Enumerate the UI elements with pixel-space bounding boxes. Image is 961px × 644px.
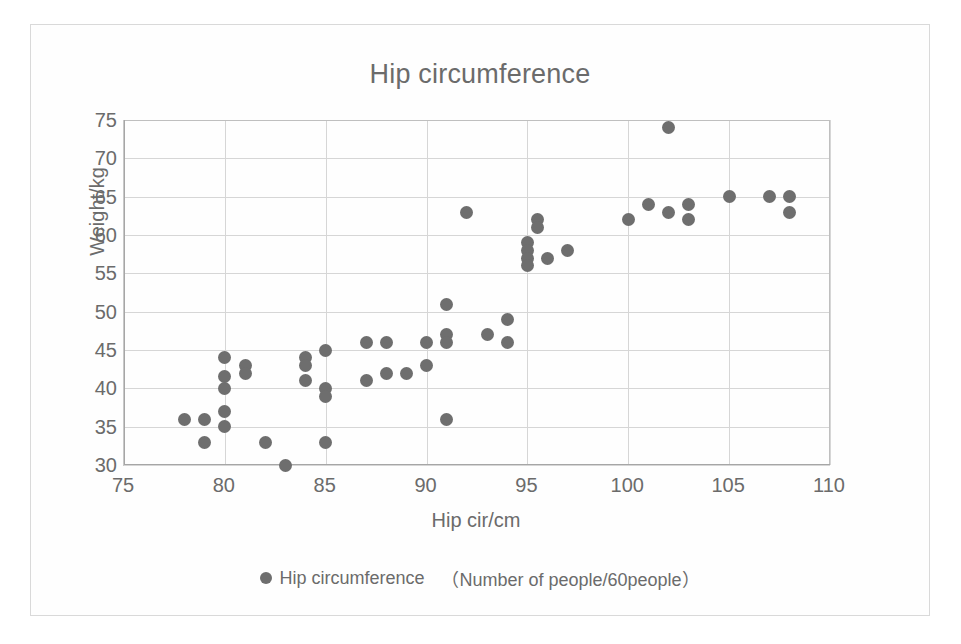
scatter-point <box>723 190 736 203</box>
chart-frame: Hip circumference Weight/kg 303540455055… <box>30 24 930 616</box>
x-tick-label: 75 <box>93 474 153 497</box>
scatter-point <box>360 336 373 349</box>
scatter-point <box>531 221 544 234</box>
y-tick-label: 65 <box>71 185 117 208</box>
x-tick-label: 85 <box>295 474 355 497</box>
y-axis-tick-labels: 30354045505560657075 <box>61 120 117 465</box>
gridline-vertical <box>527 120 528 465</box>
plot-inner <box>124 120 830 465</box>
scatter-point <box>662 206 675 219</box>
scatter-point <box>198 436 211 449</box>
scatter-point <box>360 374 373 387</box>
scatter-point <box>420 359 433 372</box>
scatter-point <box>178 413 191 426</box>
x-tick-label: 80 <box>194 474 254 497</box>
gridline-vertical <box>628 120 629 465</box>
axis-line-bottom <box>124 464 830 465</box>
scatter-point <box>218 420 231 433</box>
y-tick-label: 50 <box>71 300 117 323</box>
legend-sublabel: （Number of people/60people） <box>441 565 699 591</box>
scatter-point <box>279 459 292 472</box>
scatter-point <box>521 259 534 272</box>
legend-marker-icon <box>260 572 272 584</box>
gridline-vertical <box>326 120 327 465</box>
scatter-point <box>541 252 554 265</box>
gridline-vertical <box>729 120 730 465</box>
scatter-point <box>319 390 332 403</box>
scatter-point <box>682 213 695 226</box>
scatter-point <box>218 351 231 364</box>
scatter-point <box>501 336 514 349</box>
scatter-point <box>380 336 393 349</box>
scatter-point <box>380 367 393 380</box>
x-tick-label: 100 <box>597 474 657 497</box>
y-tick-label: 70 <box>71 147 117 170</box>
scatter-point <box>622 213 635 226</box>
scatter-point <box>501 313 514 326</box>
axis-line-left <box>124 120 125 465</box>
axis-line-right <box>829 120 830 465</box>
gridline-vertical <box>427 120 428 465</box>
y-tick-label: 45 <box>71 339 117 362</box>
gridline-horizontal <box>124 312 830 313</box>
scatter-point <box>642 198 655 211</box>
legend-label: Hip circumference <box>279 568 424 589</box>
x-tick-label: 95 <box>496 474 556 497</box>
gridline-horizontal <box>124 273 830 274</box>
axis-line-top <box>124 120 830 121</box>
x-axis-tick-labels: 7580859095100105110 <box>123 474 829 502</box>
scatter-point <box>239 367 252 380</box>
scatter-point <box>319 344 332 357</box>
gridline-horizontal <box>124 158 830 159</box>
scatter-point <box>400 367 413 380</box>
y-tick-label: 60 <box>71 224 117 247</box>
chart-title: Hip circumference <box>31 59 929 90</box>
scatter-point <box>319 436 332 449</box>
scatter-point <box>460 206 473 219</box>
scatter-point <box>481 328 494 341</box>
scatter-point <box>299 374 312 387</box>
scatter-point <box>420 336 433 349</box>
scatter-point <box>440 413 453 426</box>
y-tick-label: 35 <box>71 415 117 438</box>
scatter-point <box>218 382 231 395</box>
x-tick-label: 110 <box>799 474 859 497</box>
gridline-horizontal <box>124 235 830 236</box>
x-axis-title: Hip cir/cm <box>123 509 829 532</box>
x-tick-label: 105 <box>698 474 758 497</box>
scatter-point <box>682 198 695 211</box>
gridline-vertical <box>830 120 831 465</box>
scatter-point <box>218 405 231 418</box>
scatter-point <box>440 298 453 311</box>
scatter-point <box>783 206 796 219</box>
y-tick-label: 40 <box>71 377 117 400</box>
scatter-point <box>662 121 675 134</box>
gridline-horizontal <box>124 350 830 351</box>
plot-area <box>123 120 830 466</box>
x-tick-label: 90 <box>396 474 456 497</box>
scatter-point <box>561 244 574 257</box>
scatter-point <box>783 190 796 203</box>
chart-legend: Hip circumference （Number of people/60pe… <box>31 565 929 591</box>
scatter-point <box>440 336 453 349</box>
scatter-point <box>198 413 211 426</box>
y-tick-label: 75 <box>71 109 117 132</box>
scatter-point <box>259 436 272 449</box>
gridline-horizontal <box>124 465 830 466</box>
y-tick-label: 55 <box>71 262 117 285</box>
scatter-point <box>299 359 312 372</box>
scatter-point <box>763 190 776 203</box>
